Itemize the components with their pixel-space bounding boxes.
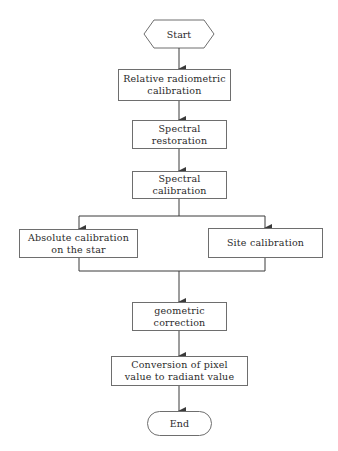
start-node: Start: [144, 20, 214, 48]
relative-radiometric-calibration-node: Relative radiometric calibration: [118, 69, 231, 101]
pixel-to-radiant-conversion-node: Conversion of pixel value to radiant val…: [111, 356, 248, 386]
node-label: Spectral calibration: [152, 173, 206, 197]
node-label: Absolute calibration on the star: [28, 232, 129, 256]
geometric-correction-node: geometric correction: [132, 302, 227, 331]
end-label: End: [170, 418, 190, 430]
spectral-restoration-node: Spectral restoration: [132, 120, 227, 149]
site-calibration-node: Site calibration: [208, 228, 323, 258]
node-label: Site calibration: [227, 237, 304, 249]
absolute-calibration-node: Absolute calibration on the star: [19, 229, 138, 258]
node-label: Conversion of pixel value to radiant val…: [125, 359, 235, 383]
flowchart-canvas: Start Relative radiometric calibration S…: [0, 0, 338, 451]
spectral-calibration-node: Spectral calibration: [132, 171, 227, 199]
node-label: geometric correction: [154, 305, 206, 329]
node-label: Spectral restoration: [152, 123, 208, 147]
start-label: Start: [167, 29, 191, 40]
end-node: End: [147, 411, 212, 436]
node-label: Relative radiometric calibration: [123, 73, 226, 97]
